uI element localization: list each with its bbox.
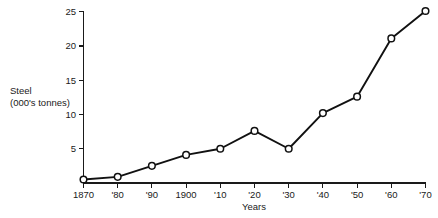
- data-point-marker: [251, 128, 258, 135]
- x-axis-tick-label: '90: [146, 189, 158, 200]
- data-point-marker: [217, 145, 224, 152]
- x-axis-tick-label: '60: [385, 189, 397, 200]
- y-axis-tick-label: 15: [65, 75, 76, 86]
- x-axis-ticks-group: [84, 183, 426, 188]
- data-point-marker: [388, 35, 395, 42]
- data-point-marker: [114, 174, 121, 181]
- y-axis-tick-label: 20: [65, 40, 76, 51]
- data-point-marker: [320, 110, 327, 117]
- x-axis-tick-label: '80: [112, 189, 124, 200]
- axes-group: [84, 12, 426, 183]
- x-axis-tick-label: '10: [214, 189, 226, 200]
- y-axis-tick-label: 5: [71, 143, 76, 154]
- y-axis-ticks-group: [79, 12, 84, 149]
- y-axis-tick-label: 25: [65, 6, 76, 17]
- y-axis-label-line1: Steel: [10, 85, 32, 96]
- y-axis-tick-labels-group: 510152025: [65, 6, 76, 154]
- x-axis-tick-label: '20: [248, 189, 260, 200]
- x-axis-tick-label: '40: [317, 189, 329, 200]
- data-series-steel: [84, 11, 426, 180]
- data-point-marker: [183, 152, 190, 159]
- data-point-marker: [149, 163, 156, 170]
- y-axis-tick-label: 10: [65, 109, 76, 120]
- x-axis-title: Years: [242, 201, 266, 212]
- y-axis-label-line2: (000's tonnes): [10, 97, 70, 108]
- x-axis-tick-label: '30: [283, 189, 295, 200]
- data-point-marker: [285, 145, 292, 152]
- x-axis-tick-label: '50: [351, 189, 363, 200]
- x-axis-tick-labels-group: 1870'80'901900'10'20'30'40'50'60'70: [73, 189, 432, 200]
- data-point-marker: [80, 176, 87, 183]
- steel-production-line-chart: 510152025 1870'80'901900'10'20'30'40'50'…: [0, 0, 438, 218]
- axis-titles-group: Steel (000's tonnes) Years: [10, 85, 266, 212]
- chart-canvas: 510152025 1870'80'901900'10'20'30'40'50'…: [0, 0, 438, 218]
- data-point-markers-group: [80, 8, 429, 183]
- data-point-marker: [422, 8, 429, 15]
- x-axis-tick-label: 1870: [73, 189, 94, 200]
- data-point-marker: [354, 93, 361, 100]
- x-axis-tick-label: '70: [419, 189, 431, 200]
- series-line-steel: [84, 11, 426, 180]
- x-axis-tick-label: 1900: [176, 189, 197, 200]
